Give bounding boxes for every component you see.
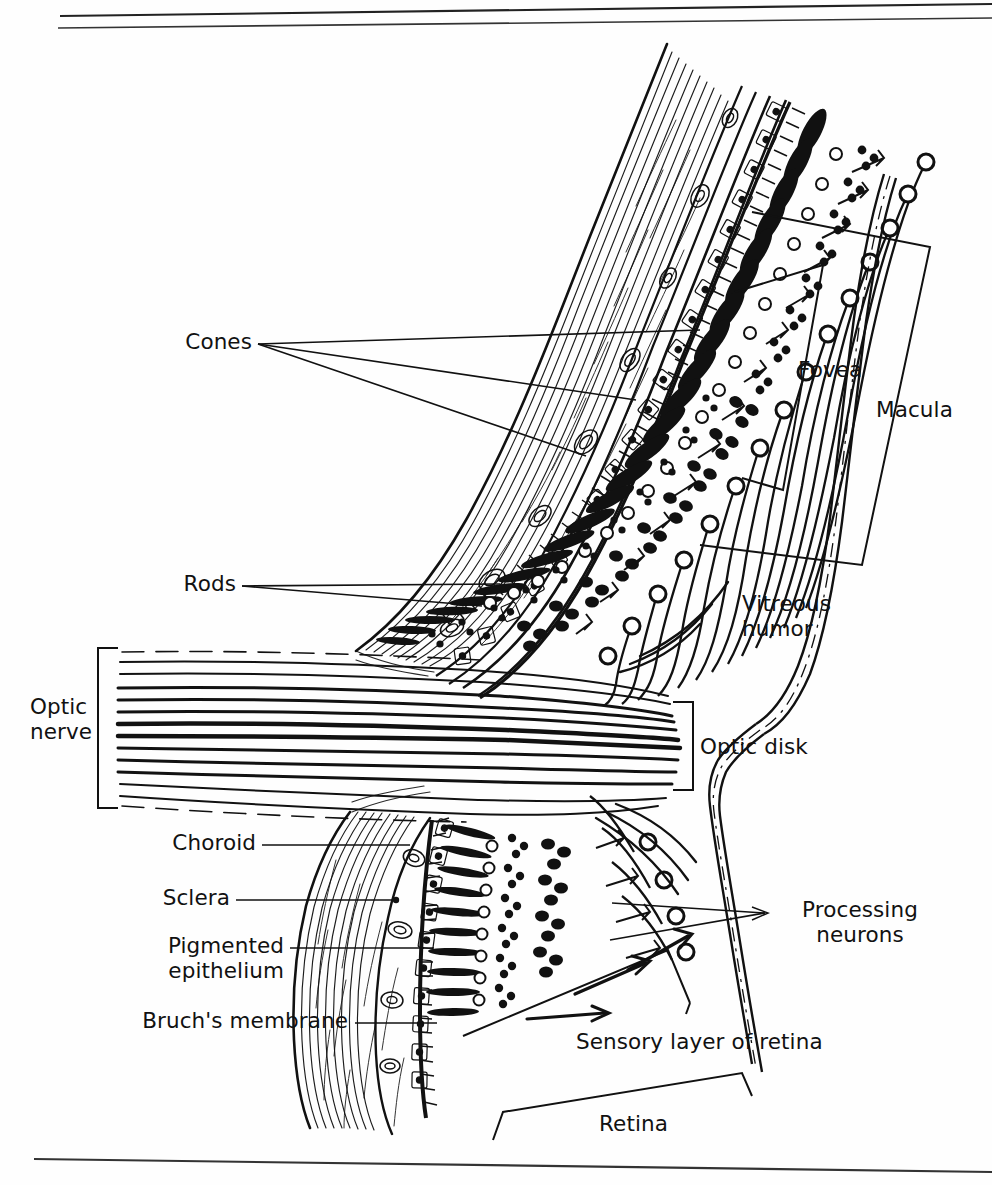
leader-lines — [236, 330, 768, 1023]
label-bruchs-membrane: Bruch's membrane — [104, 1009, 348, 1034]
label-choroid: Choroid — [130, 831, 256, 856]
photoreceptor-layer — [376, 105, 842, 1017]
label-vitreous-humor: Vitreous humor — [742, 592, 872, 642]
rods-leader-1 — [242, 584, 500, 586]
cones-leader-3 — [258, 344, 586, 456]
label-macula: Macula — [876, 398, 953, 423]
cones-leader-1 — [258, 330, 700, 344]
rods-leader-2 — [242, 586, 482, 606]
figure-page: Cones Rods Optic nerve Choroid Sclera Pi… — [0, 0, 992, 1185]
label-retina: Retina — [599, 1112, 668, 1137]
label-sclera: Sclera — [130, 886, 230, 911]
label-fovea: Fovea — [798, 358, 862, 383]
label-cones: Cones — [126, 330, 252, 355]
label-rods: Rods — [116, 572, 236, 597]
top-rules — [58, 4, 992, 28]
label-optic-disk: Optic disk — [700, 735, 808, 760]
label-processing-neurons: Processing neurons — [770, 898, 950, 948]
label-sensory-layer: Sensory layer of retina — [576, 1030, 823, 1055]
label-pigmented-epithelium: Pigmented epithelium — [110, 934, 284, 984]
sclera-leader-dot — [393, 897, 399, 903]
bottom-rule — [34, 1159, 992, 1172]
label-optic-nerve: Optic nerve — [30, 695, 120, 745]
